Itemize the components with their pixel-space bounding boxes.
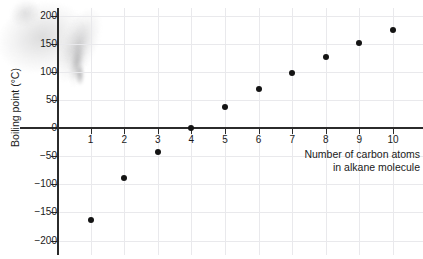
x-tick-label: 4 xyxy=(189,135,195,145)
y-tick-label: −150 xyxy=(34,207,57,217)
y-axis-line xyxy=(57,8,59,255)
y-tick-label: −200 xyxy=(34,236,57,246)
x-tick-label: 6 xyxy=(256,135,262,145)
data-point xyxy=(155,149,161,155)
x-axis-title-line-2: in alkane molecule xyxy=(296,161,420,174)
data-point xyxy=(256,86,262,92)
gridline-horizontal xyxy=(57,241,423,242)
gridline-horizontal xyxy=(57,184,423,185)
x-tick-label: 8 xyxy=(323,135,329,145)
data-point xyxy=(188,125,194,131)
data-point xyxy=(390,27,396,33)
gridline-horizontal xyxy=(57,100,423,101)
data-point xyxy=(289,70,295,76)
y-tick-label: −100 xyxy=(34,179,57,189)
y-tick-label: 100 xyxy=(40,67,57,77)
x-tick-label: 10 xyxy=(387,135,398,145)
y-tick-label: 150 xyxy=(40,39,57,49)
x-axis-title: Number of carbon atoms in alkane molecul… xyxy=(296,148,420,173)
x-axis-line xyxy=(20,127,423,129)
data-point xyxy=(222,104,228,110)
gridline-horizontal xyxy=(57,16,423,17)
gridline-horizontal xyxy=(57,72,423,73)
y-tick-label: 50 xyxy=(46,95,57,105)
y-tick-label: −50 xyxy=(40,151,57,161)
data-point xyxy=(88,217,94,223)
data-point xyxy=(121,175,127,181)
y-axis-title: Boiling point (°C) xyxy=(10,50,21,166)
gridline-horizontal xyxy=(57,44,423,45)
x-tick-label: 1 xyxy=(88,135,94,145)
x-tick-label: 7 xyxy=(289,135,295,145)
x-axis-title-line-1: Number of carbon atoms xyxy=(296,148,420,161)
x-tick-label: 5 xyxy=(222,135,228,145)
data-point xyxy=(356,40,362,46)
chart-figure: 200150100500−50−100−150−200 12345678910 … xyxy=(0,0,423,259)
x-tick-label: 3 xyxy=(155,135,161,145)
gridline-horizontal xyxy=(57,212,423,213)
y-tick-label: 200 xyxy=(40,11,57,21)
scatter-plot-area: 200150100500−50−100−150−200 12345678910 … xyxy=(0,0,423,259)
x-tick-label: 9 xyxy=(357,135,363,145)
y-tick-label: 0 xyxy=(51,123,57,133)
data-point xyxy=(323,54,329,60)
x-tick-label: 2 xyxy=(121,135,127,145)
